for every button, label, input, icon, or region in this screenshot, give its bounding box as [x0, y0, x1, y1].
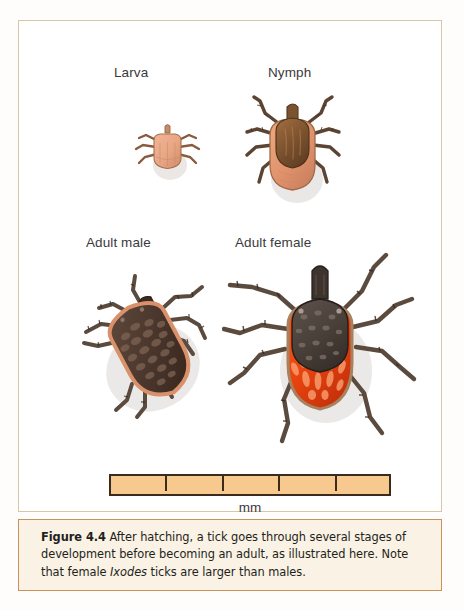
tick-illustration-adult-male — [71, 264, 223, 424]
figure-caption-box: Figure 4.4 After hatching, a tick goes t… — [18, 519, 442, 591]
figure-number: Figure 4.4 — [41, 530, 106, 544]
scale-bar-body — [109, 474, 391, 496]
tick-illustration-adult-female — [222, 251, 418, 446]
scale-tick-1 — [165, 476, 167, 491]
scale-tick-2 — [222, 476, 224, 491]
caption-part-2: ticks are larger than males. — [147, 565, 306, 579]
figure-caption-text: Figure 4.4 After hatching, a tick goes t… — [41, 529, 427, 581]
tick-illustration-larva — [132, 113, 204, 185]
illustration-frame: Larva Nymph Adult male Adult female — [18, 20, 442, 512]
tick-illustration-nymph — [237, 87, 347, 207]
stage-label-adult-female: Adult female — [235, 235, 311, 250]
stage-label-nymph: Nymph — [268, 65, 311, 80]
stage-label-larva: Larva — [114, 65, 148, 80]
scale-tick-3 — [278, 476, 280, 491]
stage-label-adult-male: Adult male — [86, 235, 151, 250]
scale-bar — [109, 474, 391, 496]
scientific-name: Ixodes — [110, 565, 147, 579]
scale-tick-4 — [335, 476, 337, 491]
scale-unit-text: mm — [239, 500, 262, 515]
figure-root: Larva Nymph Adult male Adult female — [0, 0, 464, 610]
scale-unit-label: mm — [19, 500, 464, 515]
